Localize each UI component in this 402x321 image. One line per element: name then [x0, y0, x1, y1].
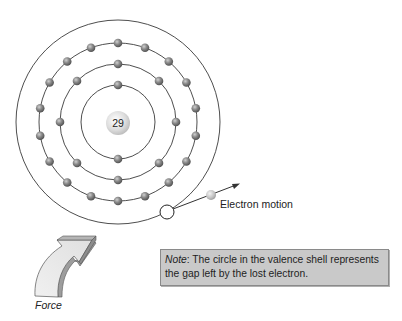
electron [45, 78, 54, 87]
electron [63, 178, 72, 187]
electron [172, 118, 181, 127]
electron [45, 157, 54, 166]
electron [155, 77, 164, 86]
electron [36, 104, 45, 113]
electron [114, 155, 123, 164]
electron [87, 44, 96, 53]
electron [36, 131, 45, 140]
electron [165, 178, 174, 187]
electron [114, 197, 123, 206]
electron [114, 81, 123, 90]
electron [87, 192, 96, 201]
electron [63, 57, 72, 66]
electron [114, 176, 123, 185]
electron [141, 192, 150, 201]
electron [192, 104, 201, 113]
electron-motion-label: Electron motion [220, 198, 293, 210]
electron [73, 159, 82, 168]
electron [73, 77, 82, 86]
free-electron [206, 190, 216, 200]
note-key: Note [165, 254, 187, 265]
electron [165, 57, 174, 66]
electron [155, 159, 164, 168]
electron [56, 118, 65, 127]
note-box: Note: The circle in the valence shell re… [160, 249, 389, 286]
electron [192, 131, 201, 140]
electron [141, 44, 150, 53]
electron [182, 78, 191, 87]
electron [114, 60, 123, 69]
electron [114, 39, 123, 48]
note-text: : The circle in the valence shell repres… [165, 254, 379, 279]
nucleus: 29 [106, 111, 130, 135]
atomic-number: 29 [112, 117, 124, 129]
hole-circle [160, 205, 174, 219]
force-label: Force [35, 299, 62, 311]
force-arrow-icon [35, 236, 96, 297]
electron [182, 157, 191, 166]
